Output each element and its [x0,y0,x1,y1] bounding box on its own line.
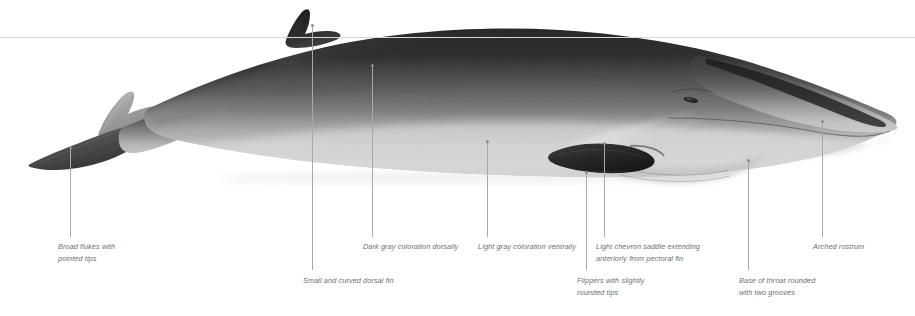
horizontal-reference-line [0,37,915,38]
callout-light-gray-ventral: Light gray coloration ventrally [478,241,576,253]
leader-line-dark-gray-dorsal [372,65,373,237]
callout-throat-grooves: Base of throat rounded with two grooves [739,275,815,298]
leader-line-flippers [586,172,587,270]
leader-line-light-gray-ventral [487,141,488,237]
whale-body-illustration [0,0,915,316]
callout-dorsal-fin: Small and curved dorsal fin [303,275,394,287]
leader-line-throat-grooves [748,160,749,270]
leader-line-dorsal-fin [312,25,313,270]
callout-dark-gray-dorsal: Dark gray coloration dorsally [363,241,458,253]
whale-illustration-figure: Broad flukes with pointed tips Small and… [0,0,915,316]
leader-line-broad-flukes [70,147,71,237]
leader-line-chevron-saddle [604,143,605,237]
leader-line-arched-rostrum [822,121,823,237]
callout-broad-flukes: Broad flukes with pointed tips [58,241,115,264]
callout-flippers: Flippers with slightly rounded tips [577,275,645,298]
callout-chevron-saddle: Light chevron saddle extending anteriorl… [596,241,700,264]
callout-arched-rostrum: Arched rostrum [813,241,864,253]
